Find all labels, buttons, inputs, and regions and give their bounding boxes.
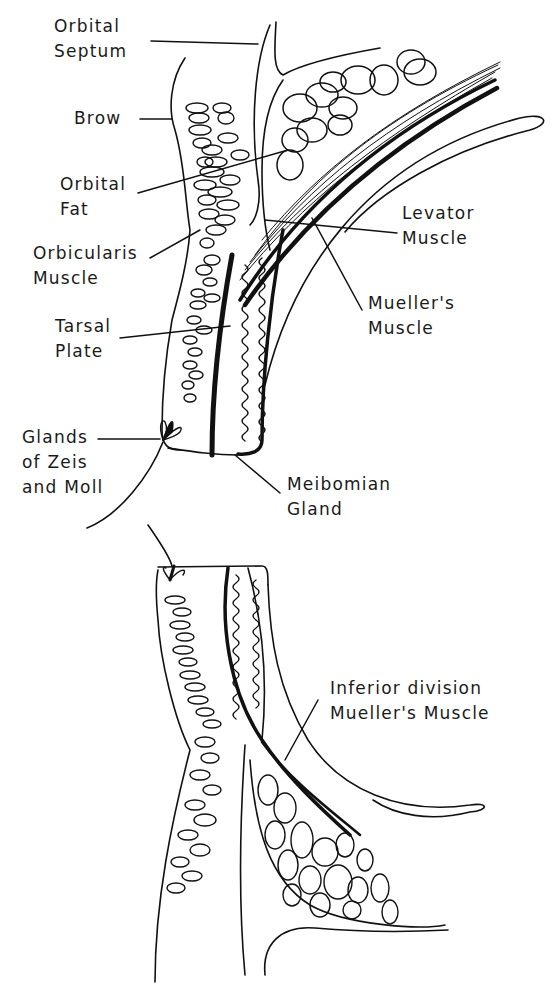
- label-muellers-muscle: Mueller's Muscle: [368, 291, 455, 341]
- label-glands-zeis-moll: Glands of Zeis and Moll: [22, 425, 104, 500]
- label-brow: Brow: [74, 106, 121, 131]
- label-inferior-division-muellers: Inferior division Mueller's Muscle: [330, 676, 490, 726]
- lower-lid-drawing: [148, 525, 484, 982]
- label-levator-muscle: Levator Muscle: [402, 201, 475, 251]
- upper-lid-drawing: [87, 22, 544, 528]
- label-orbital-septum: Orbital Septum: [54, 14, 127, 64]
- leader-lines: [98, 41, 397, 760]
- eyelid-drawing: [0, 0, 558, 1006]
- eyelid-anatomy-diagram: Orbital Septum Brow Orbital Fat Orbicula…: [0, 0, 558, 1006]
- label-tarsal-plate: Tarsal Plate: [55, 314, 111, 364]
- label-meibomian-gland: Meibomian Gland: [287, 472, 391, 522]
- label-orbicularis-muscle: Orbicularis Muscle: [33, 241, 138, 291]
- label-orbital-fat: Orbital Fat: [60, 172, 126, 222]
